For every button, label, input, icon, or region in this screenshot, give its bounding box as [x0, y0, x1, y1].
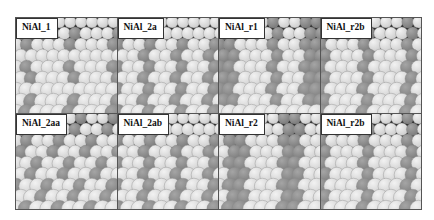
- atom-structure-panel: NiAl_1: [16, 18, 117, 113]
- atom-structure-panel: NiAl_r2: [219, 114, 320, 209]
- panel-label: NiAl_2a: [118, 18, 164, 39]
- atom-structure-panel: NiAl_r2b: [321, 114, 422, 209]
- atom-structure-panel: NiAl_r1: [219, 18, 320, 113]
- panel-grid: NiAl_1 NiAl_2a NiAl_r1 NiAl_r2b NiAl_2aa…: [15, 17, 422, 210]
- atom-structure-panel: NiAl_2ab: [118, 114, 219, 209]
- atom-structure-panel: NiAl_2a: [118, 18, 219, 113]
- panel-label: NiAl_r2b: [321, 114, 372, 135]
- panel-label: NiAl_r2: [219, 114, 265, 135]
- panel-label: NiAl_2aa: [16, 114, 67, 135]
- atom-structure-panel: NiAl_r2b: [321, 18, 422, 113]
- atom-structure-panel: NiAl_2aa: [16, 114, 117, 209]
- panel-label: NiAl_r1: [219, 18, 265, 39]
- panel-label: NiAl_r2b: [321, 18, 372, 39]
- panel-label: NiAl_2ab: [118, 114, 170, 135]
- panel-label: NiAl_1: [16, 18, 58, 39]
